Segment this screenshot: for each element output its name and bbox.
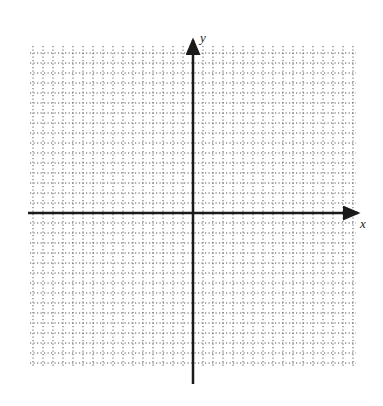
y-axis-label: y — [198, 30, 206, 45]
x-axis-label: x — [359, 216, 366, 231]
coordinate-plane: x y — [0, 0, 383, 406]
